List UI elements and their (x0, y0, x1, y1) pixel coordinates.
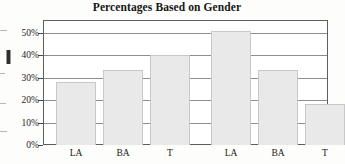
scan-artifact-mark (0, 73, 5, 74)
y-axis-label-20: 20% (9, 95, 39, 105)
x-axis-label-group2-t: T (305, 148, 345, 158)
x-axis-label-group1-la: LA (56, 148, 96, 158)
bar-group2-ba (258, 70, 298, 145)
x-axis-label-group2-ba: BA (258, 148, 298, 158)
y-axis-label-0: 0% (9, 140, 39, 150)
bar-group1-la (56, 82, 96, 145)
y-axis-label-10: 10% (9, 118, 39, 128)
scan-artifact-mark (0, 131, 7, 132)
bar-group1-ba (103, 70, 143, 145)
chart-title: Percentages Based on Gender (0, 1, 334, 13)
x-axis-label-group1-t: T (150, 148, 190, 158)
scan-artifact-mark (0, 103, 6, 104)
bar-group1-t (150, 55, 190, 145)
gridline-50 (44, 33, 327, 34)
bar-group2-t (305, 104, 345, 145)
x-axis-label-group2-la: LA (211, 148, 251, 158)
bar-group2-la (211, 31, 251, 145)
scan-artifact-mark (0, 30, 7, 31)
y-axis-label-30: 30% (9, 73, 39, 83)
y-axis-label-50: 50% (9, 28, 39, 38)
x-axis-label-group1-ba: BA (103, 148, 143, 158)
y-axis-label-40: 40% (9, 50, 39, 60)
plot-area (44, 21, 327, 145)
